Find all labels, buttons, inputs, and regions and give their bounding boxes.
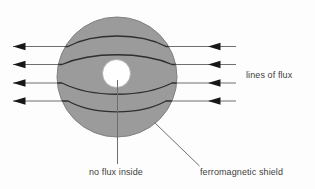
diagram-canvas: lines of flux no flux inside ferromagnet… (0, 0, 315, 189)
flux-free-hole (103, 60, 131, 88)
label-ferromagnetic-shield: ferromagnetic shield (200, 167, 283, 177)
label-lines-of-flux: lines of flux (246, 70, 293, 80)
magnetic-shield-diagram: lines of flux no flux inside ferromagnet… (0, 0, 315, 189)
label-no-flux-inside: no flux inside (89, 167, 143, 177)
